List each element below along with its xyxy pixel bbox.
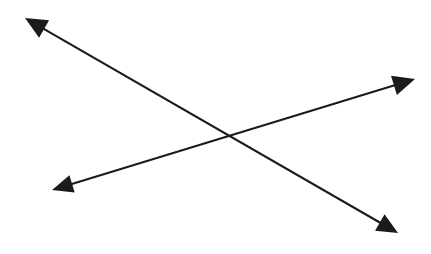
crossing-arrows-figure: [0, 0, 431, 254]
diagram-canvas: Crossing Arrows Diagram Two straight dou…: [0, 0, 431, 254]
